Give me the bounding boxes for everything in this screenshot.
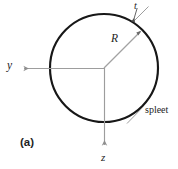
thickness-label: t: [134, 1, 137, 11]
figure-panel-a: y z R t spleet (a): [0, 0, 178, 169]
radius-label: R: [111, 33, 118, 45]
panel-label: (a): [20, 137, 34, 149]
y-axis-label: y: [7, 60, 12, 72]
z-axis-label: z: [101, 152, 105, 163]
radius-line: [104, 32, 141, 69]
slit-annotation-label: spleet: [145, 105, 168, 115]
